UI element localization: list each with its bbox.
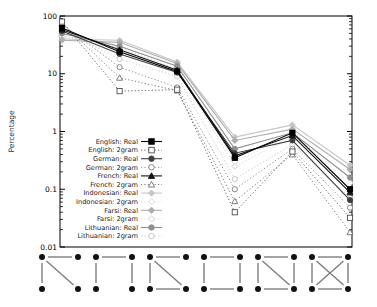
legend-label-lithuanian-2gram: Lithuanian: 2gram (77, 232, 138, 240)
circle-marker (347, 197, 352, 202)
motif-node-motif-4-tr (237, 254, 243, 260)
motif-node-motif-2-br (129, 286, 135, 292)
figure-canvas: 1001010.10.01PercentageEnglish: RealEngl… (0, 0, 377, 307)
triangle-marker (148, 181, 154, 187)
legend-label-french-2gram: French: 2gram (90, 181, 138, 189)
y-tick-label: 0.1 (45, 185, 57, 194)
square-marker (347, 187, 352, 192)
y-tick-label: 0.01 (40, 243, 57, 252)
y-axis-title: Percentage (7, 110, 16, 153)
motif-node-motif-3-tl (147, 254, 153, 260)
motif-edge-motif-5 (262, 261, 289, 285)
square-marker (232, 210, 237, 215)
motif-node-motif-4-br (237, 286, 243, 292)
y-tick-label: 1 (52, 127, 57, 136)
circle-marker (232, 187, 237, 192)
motif-node-motif-1-tl (39, 254, 45, 260)
legend-label-german-real: German: Real (93, 155, 138, 163)
square-marker (290, 149, 295, 154)
diamond-marker (232, 163, 238, 169)
diamond-marker (148, 207, 154, 213)
motif-node-motif-6-tl (309, 254, 315, 260)
y-tick-label: 10 (47, 69, 57, 78)
motif-node-motif-1-tr (75, 254, 81, 260)
square-marker (232, 155, 237, 160)
legend-label-lithuanian-real: Lithuanian: Real (85, 224, 138, 232)
motif-node-motif-5-tr (291, 254, 297, 260)
motif-node-motif-4-tl (201, 254, 207, 260)
legend-label-farsi-real: Farsi: Real (104, 207, 138, 215)
legend-label-french-real: French: Real (98, 172, 139, 180)
circle-marker (149, 156, 155, 162)
diamond-marker (148, 216, 154, 222)
motif-node-motif-3-br (183, 286, 189, 292)
motif-edge-motif-1 (46, 261, 73, 285)
motif-node-motif-2-tr (129, 254, 135, 260)
motif-node-motif-1-br (75, 286, 81, 292)
triangle-marker (117, 75, 123, 80)
square-marker (175, 69, 180, 74)
motif-node-motif-6-bl (309, 286, 315, 292)
motif-percentage-chart: 1001010.10.01PercentageEnglish: RealEngl… (0, 0, 377, 307)
motif-edge-motif-3 (154, 261, 181, 285)
circle-marker (117, 65, 122, 70)
diamond-marker (148, 190, 154, 196)
circle-marker (290, 138, 295, 143)
motif-node-motif-4-bl (201, 286, 207, 292)
legend-label-english-real: English: Real (96, 138, 139, 146)
motif-node-motif-2-bl (93, 286, 99, 292)
square-marker (117, 89, 122, 94)
legend-label-farsi-2gram: Farsi: 2gram (97, 215, 138, 223)
circle-marker (149, 233, 155, 239)
motif-node-motif-2-tl (93, 254, 99, 260)
circle-marker (232, 176, 237, 181)
motif-node-motif-6-br (345, 286, 351, 292)
y-tick-label: 100 (43, 12, 58, 21)
circle-marker (149, 225, 155, 231)
circle-marker (149, 165, 155, 171)
legend-label-german-2gram: German: 2gram (86, 164, 138, 172)
diamond-marker (148, 199, 154, 205)
legend-label-indonesian-2gram: Indonesian: 2gram (76, 198, 138, 206)
motif-node-motif-5-br (291, 286, 297, 292)
motif-node-motif-5-bl (255, 286, 261, 292)
motif-node-motif-5-tl (255, 254, 261, 260)
motif-node-motif-6-tr (345, 254, 351, 260)
square-marker (290, 130, 295, 135)
legend-label-english-2gram: English: 2gram (88, 146, 138, 154)
square-marker (117, 49, 122, 54)
square-marker (59, 19, 64, 24)
circle-marker (347, 205, 352, 210)
square-marker (149, 147, 155, 153)
motif-node-motif-3-bl (147, 286, 153, 292)
square-marker (175, 87, 180, 92)
square-marker (149, 139, 155, 145)
circle-marker (347, 175, 352, 180)
square-marker (347, 215, 352, 220)
motif-node-motif-1-bl (39, 286, 45, 292)
circle-marker (117, 56, 122, 61)
motif-node-motif-3-tr (183, 254, 189, 260)
square-marker (59, 25, 64, 30)
legend-label-indonesian-real: Indonesian: Real (83, 189, 138, 197)
